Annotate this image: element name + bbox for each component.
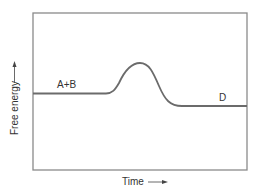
x-axis-arrow-icon bbox=[148, 180, 168, 184]
x-axis-label: Time bbox=[122, 176, 144, 187]
y-axis-label-group: Free energy bbox=[9, 61, 20, 135]
energy-diagram: A+B D Time Free energy bbox=[0, 0, 259, 193]
product-label: D bbox=[219, 92, 226, 103]
y-axis-arrow-icon bbox=[13, 61, 17, 83]
reactant-label: A+B bbox=[57, 79, 77, 90]
plot-frame bbox=[33, 13, 247, 170]
y-axis-label: Free energy bbox=[9, 81, 20, 135]
x-axis-label-group: Time bbox=[122, 176, 168, 187]
